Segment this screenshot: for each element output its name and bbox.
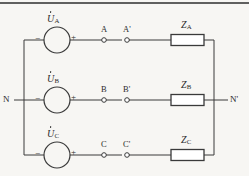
node-label-n-prime: N' — [230, 95, 238, 104]
phase-c-source-symbol — [44, 142, 70, 168]
phase-a-phasor-symbol: U — [47, 14, 54, 24]
phase-b-terminal-far — [125, 98, 130, 103]
phase-c-source-label: UC — [47, 129, 59, 140]
phase-c-source-subscript: C — [54, 132, 59, 139]
phase-c-minus-sign: − — [35, 149, 40, 158]
phase-a-minus-sign: − — [35, 34, 40, 43]
phase-c-terminal-far — [125, 153, 130, 158]
phase-a-source-subscript: A — [54, 17, 59, 24]
phase-c-impedance-box — [171, 150, 204, 161]
phase-c-terminal-near-label: C — [101, 140, 107, 149]
phase-b-phasor-symbol: U — [47, 74, 54, 84]
phase-a-source-label: UA — [47, 14, 59, 25]
phase-b-impedance-subscript: B — [187, 83, 192, 90]
phase-b-terminal-far-label: B' — [123, 85, 130, 94]
phase-a-source-symbol — [44, 27, 70, 53]
phase-b-impedance-box — [171, 95, 204, 106]
phase-c-impedance-label: ZC — [181, 135, 191, 146]
phase-c-impedance-letter: Z — [181, 134, 187, 145]
phase-a-plus-sign: + — [71, 33, 76, 42]
phase-b-source-label: UB — [47, 74, 59, 85]
phase-a-source-letter: U — [47, 13, 54, 24]
phase-a-terminal-far-label: A' — [123, 25, 131, 34]
phase-b-terminal-near — [102, 98, 107, 103]
phase-b-terminal-near-label: B — [101, 85, 107, 94]
phase-a-terminal-near — [102, 38, 107, 43]
phase-b-source-symbol — [44, 87, 70, 113]
phase-c-plus-sign: + — [71, 148, 76, 157]
phase-c-phasor-dot — [50, 126, 52, 128]
phase-c-phasor-symbol: U — [47, 129, 54, 139]
circuit-diagram: N N' UA − + A A' ZA UB − + B B' ZB UC − … — [0, 0, 249, 176]
node-label-n: N — [3, 95, 10, 104]
phase-c-impedance-subscript: C — [187, 138, 192, 145]
phase-b-impedance-letter: Z — [181, 79, 187, 90]
phase-c-source-letter: U — [47, 128, 54, 139]
phase-c-terminal-far-label: C' — [123, 140, 130, 149]
phase-a-impedance-box — [171, 35, 204, 46]
phase-b-impedance-label: ZB — [181, 80, 191, 91]
phase-a-terminal-far — [125, 38, 130, 43]
phase-b-minus-sign: − — [35, 94, 40, 103]
phase-a-impedance-label: ZA — [181, 20, 192, 31]
phase-b-source-letter: U — [47, 73, 54, 84]
phase-b-plus-sign: + — [71, 93, 76, 102]
phase-b-phasor-dot — [50, 71, 52, 73]
phase-c-terminal-near — [102, 153, 107, 158]
phase-a-phasor-dot — [50, 11, 52, 13]
phase-a-impedance-subscript: A — [187, 23, 192, 30]
phase-a-terminal-near-label: A — [101, 25, 107, 34]
phase-b-source-subscript: B — [54, 77, 59, 84]
phase-a-impedance-letter: Z — [181, 19, 187, 30]
